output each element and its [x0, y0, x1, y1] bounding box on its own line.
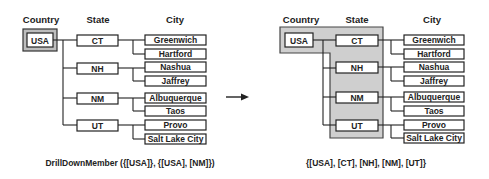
city-label: Greenwich: [154, 35, 197, 45]
city-label: Albuquerque: [149, 93, 202, 103]
country-label: USA: [290, 36, 308, 46]
city-label: Hartford: [417, 49, 451, 59]
city-label: Taos: [166, 106, 185, 116]
right-arrow-icon: [226, 94, 249, 101]
city-label: Provo: [163, 120, 187, 130]
state-label: NM: [350, 93, 363, 103]
city-label: Albuquerque: [408, 92, 461, 102]
country-label: USA: [31, 36, 49, 46]
city-label: Nashua: [419, 62, 450, 72]
city-label: Greenwich: [412, 35, 455, 45]
header-state: State: [86, 14, 109, 25]
left-diagram: Country State City USA CT NH NM UT Green…: [23, 14, 215, 168]
state-label: UT: [351, 121, 363, 131]
drilldown-diagram: Country State City USA CT NH NM UT Green…: [0, 0, 489, 179]
city-label: Hartford: [159, 49, 193, 59]
header-country: Country: [23, 14, 60, 25]
header-city: City: [166, 14, 185, 25]
city-label: Salt Lake City: [406, 133, 462, 143]
header-city: City: [423, 14, 442, 25]
state-label: CT: [351, 36, 363, 46]
city-label: Salt Lake City: [148, 134, 204, 144]
city-label: Jaffrey: [162, 76, 190, 86]
city-label: Jaffrey: [420, 76, 448, 86]
state-label: NH: [351, 63, 363, 73]
city-label: Nashua: [160, 62, 191, 72]
header-country: Country: [283, 14, 320, 25]
right-diagram: Country State City USA CT NH NM UT Green…: [280, 14, 464, 168]
header-state: State: [345, 14, 368, 25]
city-label: Provo: [422, 120, 446, 130]
state-label: CT: [92, 36, 104, 46]
left-caption: DrillDownMember ({[USA]}, {[USA], [NM]}): [45, 158, 214, 168]
right-caption: {[USA], [CT], [NH], [NM], [UT]}: [306, 158, 427, 168]
city-label: Taos: [424, 106, 443, 116]
state-label: NM: [91, 94, 104, 104]
state-label: UT: [92, 121, 104, 131]
state-label: NH: [91, 64, 103, 74]
